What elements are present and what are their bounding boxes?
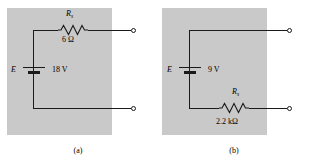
resistor-a-label: Rs [66, 10, 73, 18]
wire-b-top [189, 30, 287, 31]
source-b-value: 9 V [208, 66, 220, 74]
caption-b: (b) [156, 147, 312, 155]
circuit-panel-b: E 9 V Rs 2.2 kΩ (b) [156, 0, 312, 167]
wire-a-top-left [33, 30, 58, 31]
source-b-symbol: E [167, 66, 172, 74]
terminal-a-top[interactable] [131, 28, 136, 33]
resistor-a-value: 6 Ω [62, 36, 74, 44]
caption-a: (a) [0, 147, 156, 155]
battery-b-short-plate [184, 71, 196, 74]
terminal-b-bottom[interactable] [287, 106, 292, 111]
circuit-panel-a: Rs 6 Ω E 18 V (a) [0, 0, 156, 167]
resistor-a-subscript-text: s [71, 13, 73, 19]
source-a-symbol: E [11, 66, 16, 74]
wire-a-top-right [88, 30, 131, 31]
terminal-b-top[interactable] [287, 28, 292, 33]
wire-a-left-vertical-top [33, 30, 34, 71]
wire-a-left-vertical-bottom [33, 74, 34, 108]
wire-b-bottom-right [249, 108, 287, 109]
resistor-b-label: Rs [232, 88, 239, 96]
wire-b-left-vertical-top [189, 30, 190, 71]
circuit-figure: Rs 6 Ω E 18 V (a) [0, 0, 312, 167]
wire-b-left-vertical-bottom [189, 74, 190, 108]
resistor-b-value: 2.2 kΩ [216, 118, 238, 126]
source-a-value: 18 V [52, 66, 68, 74]
battery-a-short-plate [28, 71, 40, 74]
battery-a-long-plate [23, 67, 45, 68]
wire-a-bottom [33, 108, 131, 109]
battery-b-symbol [179, 67, 201, 76]
resistor-b-subscript-text: s [237, 91, 239, 97]
resistor-b-symbol [219, 102, 249, 114]
battery-b-long-plate [179, 67, 201, 68]
terminal-a-bottom[interactable] [131, 106, 136, 111]
battery-a-symbol [23, 67, 45, 76]
wire-b-bottom-left [189, 108, 219, 109]
